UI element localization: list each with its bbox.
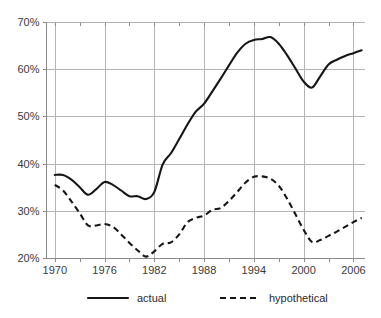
y-axis-tick-label: 30% <box>17 205 39 217</box>
line-chart: 20%30%40%50%60%70% 197019761982198819942… <box>0 0 381 318</box>
x-axis-tick-label: 1976 <box>92 264 116 276</box>
axis-tick-marks <box>43 22 366 262</box>
legend-label-hypothetical: hypothetical <box>269 292 328 304</box>
x-axis-tick-label: 1988 <box>192 264 216 276</box>
x-axis-tick-label: 1994 <box>242 264 266 276</box>
chart-legend: actual hypothetical <box>88 292 328 304</box>
x-axis-tick-label: 2006 <box>341 264 365 276</box>
x-axis-tick-label: 2000 <box>291 264 315 276</box>
x-axis-tick-label: 1970 <box>43 264 67 276</box>
y-axis-tick-label: 50% <box>17 110 39 122</box>
vertical-gridlines <box>56 22 354 258</box>
y-axis-tick-label: 60% <box>17 63 39 75</box>
y-axis-tick-label: 20% <box>17 252 39 264</box>
x-axis-tick-labels: 1970197619821988199420002006 <box>43 264 366 276</box>
series-line-actual <box>55 37 362 199</box>
series-line-hypothetical <box>55 176 362 257</box>
y-axis-tick-label: 40% <box>17 158 39 170</box>
y-axis-tick-label: 70% <box>17 16 39 28</box>
legend-label-actual: actual <box>137 292 166 304</box>
horizontal-gridlines <box>47 23 366 212</box>
chart-canvas: 20%30%40%50%60%70% 197019761982198819942… <box>0 0 381 318</box>
y-axis-tick-labels: 20%30%40%50%60%70% <box>17 16 39 264</box>
x-axis-tick-label: 1982 <box>142 264 166 276</box>
